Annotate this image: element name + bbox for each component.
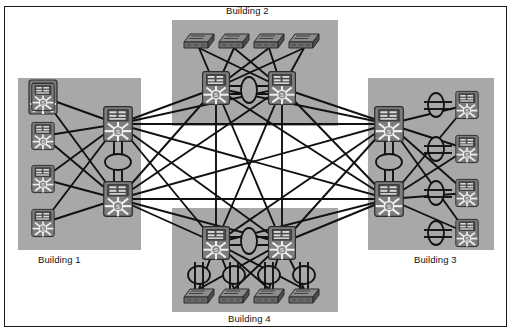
building-2-label: Building 2 — [226, 5, 269, 16]
building-3-label: Building 3 — [414, 254, 457, 265]
diagram-frame-border — [4, 6, 507, 327]
building-1-label: Building 1 — [38, 254, 81, 265]
network-diagram: S — [0, 0, 512, 334]
building-4-label: Building 4 — [228, 313, 271, 324]
